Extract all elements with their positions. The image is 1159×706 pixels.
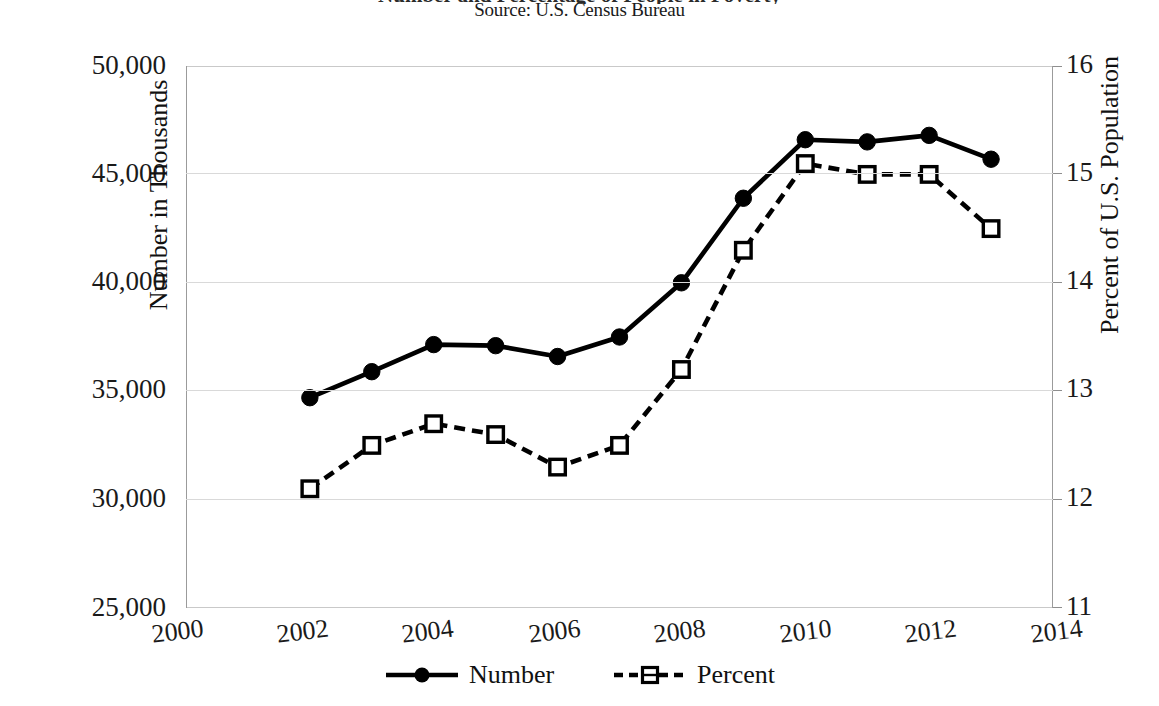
datapoint-number-2003[interactable] xyxy=(364,363,380,379)
right-tick-mark-16 xyxy=(1053,66,1062,67)
plot-area xyxy=(186,66,1053,608)
datapoint-percent-2011[interactable] xyxy=(859,167,875,183)
series-line-percent xyxy=(310,164,991,489)
right-tick-mark-15 xyxy=(1053,173,1062,174)
datapoint-number-2005[interactable] xyxy=(487,337,503,353)
series-percent-group xyxy=(302,156,999,497)
x-tick-2002: 2002 xyxy=(275,614,330,650)
x-tick-2010: 2010 xyxy=(778,614,833,650)
y-right-tick-13: 13 xyxy=(1066,373,1126,404)
datapoint-number-2004[interactable] xyxy=(426,336,442,352)
datapoint-percent-2005[interactable] xyxy=(488,427,504,443)
datapoint-percent-2009[interactable] xyxy=(736,243,752,259)
y-axis-right-title: Percent of U.S. Population xyxy=(1095,30,1125,360)
datapoint-number-2002[interactable] xyxy=(302,390,318,406)
chart-source-subtitle: Source: U.S. Census Bureau xyxy=(0,0,1159,22)
datapoint-number-2006[interactable] xyxy=(549,348,565,364)
datapoint-percent-2002[interactable] xyxy=(302,481,318,497)
right-tick-mark-14 xyxy=(1053,282,1062,283)
y-left-tick-40000: 40,000 xyxy=(0,266,166,297)
y-left-tick-30000: 30,000 xyxy=(0,483,166,514)
legend-item-percent[interactable]: Percent xyxy=(612,662,775,688)
datapoint-percent-2012[interactable] xyxy=(921,167,937,183)
right-tick-mark-13 xyxy=(1053,390,1062,391)
y-right-tick-12: 12 xyxy=(1066,482,1126,513)
datapoint-number-2013[interactable] xyxy=(983,151,999,167)
legend-solid-line-circle-icon xyxy=(384,665,460,685)
y-axis-left-title: Number in Thousands xyxy=(144,30,174,360)
gridline-40000 xyxy=(186,282,1053,283)
y-left-tick-35000: 35,000 xyxy=(0,374,166,405)
legend-label-percent: Percent xyxy=(697,662,775,688)
x-tick-2014: 2014 xyxy=(1029,614,1084,650)
datapoint-percent-2007[interactable] xyxy=(612,438,628,454)
datapoint-percent-2006[interactable] xyxy=(550,459,566,475)
series-number-group xyxy=(302,127,1000,406)
legend-dashed-line-square-icon xyxy=(612,665,688,685)
datapoint-number-2010[interactable] xyxy=(797,132,813,148)
x-tick-2008: 2008 xyxy=(652,614,707,650)
gridline-35000 xyxy=(186,390,1053,391)
y-left-tick-25000: 25,000 xyxy=(0,592,166,623)
datapoint-number-2012[interactable] xyxy=(921,127,937,143)
gridline-30000 xyxy=(186,499,1053,500)
datapoint-number-2011[interactable] xyxy=(859,134,875,150)
x-tick-2004: 2004 xyxy=(400,614,455,650)
plot-top-edge xyxy=(186,66,1053,67)
legend-item-number[interactable]: Number xyxy=(384,662,554,688)
x-tick-2012: 2012 xyxy=(903,614,958,650)
y-axis-left-line xyxy=(186,66,187,608)
datapoint-number-2009[interactable] xyxy=(735,190,751,206)
x-tick-2000: 2000 xyxy=(150,614,205,650)
x-tick-2006: 2006 xyxy=(527,614,582,650)
plot-bottom-edge xyxy=(186,607,1053,608)
gridline-45000 xyxy=(186,173,1053,174)
datapoint-percent-2010[interactable] xyxy=(798,156,814,172)
datapoint-number-2007[interactable] xyxy=(611,329,627,345)
datapoint-percent-2003[interactable] xyxy=(364,438,380,454)
datapoint-percent-2004[interactable] xyxy=(426,416,442,432)
y-axis-right-line xyxy=(1052,66,1053,608)
right-tick-mark-11 xyxy=(1053,607,1062,608)
right-tick-mark-12 xyxy=(1053,499,1062,500)
series-plot-svg xyxy=(186,66,1053,608)
y-left-tick-45000: 45,000 xyxy=(0,158,166,189)
chart-legend: Number Percent xyxy=(0,662,1159,688)
datapoint-percent-2008[interactable] xyxy=(674,362,690,378)
datapoint-percent-2013[interactable] xyxy=(983,221,999,237)
y-left-tick-50000: 50,000 xyxy=(0,50,166,81)
legend-label-number: Number xyxy=(469,662,554,688)
